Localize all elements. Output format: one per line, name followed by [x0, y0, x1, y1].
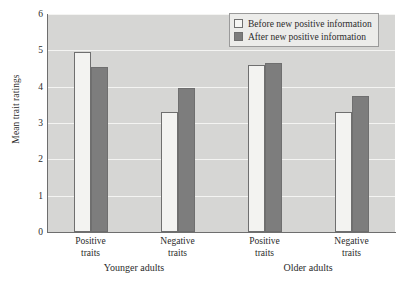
- top-caption-sliver: [80, 0, 330, 5]
- bar-before: [248, 65, 265, 232]
- legend-swatch-before-icon: [234, 19, 243, 28]
- gridline: [47, 50, 395, 51]
- x-axis-tick-label: Negativetraits: [133, 236, 223, 259]
- y-axis-ticks: 0123456: [0, 14, 43, 232]
- x-axis-tick-line: Negative: [133, 236, 223, 248]
- y-axis-tick-label: 1: [3, 191, 43, 201]
- bar-before: [74, 52, 91, 232]
- bar-before: [161, 112, 178, 232]
- x-axis-tick-line: Positive: [46, 236, 136, 248]
- y-axis-tick-label: 3: [3, 118, 43, 128]
- x-axis-tick-line: Positive: [220, 236, 310, 248]
- y-axis-tick-label: 4: [3, 82, 43, 92]
- legend-label-after: After new positive information: [248, 32, 366, 42]
- x-axis-tick-label: Positivetraits: [220, 236, 310, 259]
- y-axis-tick-label: 5: [3, 45, 43, 55]
- x-axis-tick-line: traits: [133, 248, 223, 260]
- y-axis-line: [47, 14, 48, 233]
- bar-after: [265, 63, 282, 232]
- x-axis-group-label: Younger adults: [54, 262, 214, 273]
- bar-chart: Mean trait ratings 0123456 Before new po…: [0, 0, 402, 289]
- y-axis-tick-label: 2: [3, 154, 43, 164]
- legend-item-after: After new positive information: [234, 30, 372, 43]
- legend-swatch-after-icon: [234, 32, 243, 41]
- bar-after: [352, 96, 369, 232]
- x-axis-tick-line: traits: [46, 248, 136, 260]
- x-axis-tick-line: traits: [220, 248, 310, 260]
- y-axis-tick-label: 6: [3, 9, 43, 19]
- bar-after: [178, 88, 195, 232]
- x-axis-tick-label: Negativetraits: [307, 236, 397, 259]
- bar-after: [91, 67, 108, 232]
- x-axis-tick-line: traits: [307, 248, 397, 260]
- x-axis-tick-line: Negative: [307, 236, 397, 248]
- x-axis-tick-label: Positivetraits: [46, 236, 136, 259]
- x-axis-group-label: Older adults: [228, 262, 388, 273]
- legend: Before new positive information After ne…: [229, 13, 379, 47]
- x-axis-line: [47, 232, 396, 233]
- legend-item-before: Before new positive information: [234, 17, 372, 30]
- bar-before: [335, 112, 352, 232]
- y-axis-tick-label: 0: [3, 227, 43, 237]
- legend-label-before: Before new positive information: [248, 19, 372, 29]
